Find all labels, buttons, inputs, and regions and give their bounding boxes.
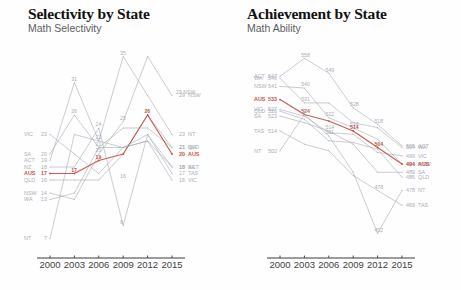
right-edge-state-label: TAS xyxy=(418,202,428,208)
left-edge-value-label: 16 xyxy=(41,177,47,183)
left-edge-value-label: 19 xyxy=(41,157,47,163)
data-point xyxy=(171,153,173,155)
series-line-nsw[interactable] xyxy=(50,57,172,200)
x-axis-tick-label[interactable]: 2009 xyxy=(343,259,364,270)
data-point xyxy=(353,172,354,173)
data-point xyxy=(377,190,378,191)
left-edge-value-label: 20 xyxy=(41,151,47,157)
value-label: 549 xyxy=(326,67,335,73)
data-point xyxy=(353,175,354,176)
data-point xyxy=(49,173,51,175)
data-point xyxy=(49,134,50,135)
dual-chart-figure: Selectivity by State Math Selectivity 35… xyxy=(0,0,461,290)
right-edge-state-label: NSW xyxy=(188,92,201,98)
value-label: 24 xyxy=(96,121,102,127)
left-edge-value-label: 541 xyxy=(268,83,277,89)
value-label: 540 xyxy=(301,81,310,87)
series-line-wa[interactable] xyxy=(280,78,402,147)
data-point xyxy=(279,116,280,117)
data-point xyxy=(49,166,50,167)
x-axis-tick-label[interactable]: 2006 xyxy=(318,259,339,270)
data-point xyxy=(123,127,124,128)
data-point xyxy=(279,86,280,87)
data-point xyxy=(123,225,124,226)
x-axis-tick-label[interactable]: 2003 xyxy=(64,259,85,270)
data-point xyxy=(304,122,305,123)
data-point xyxy=(401,190,402,191)
x-axis-tick-label[interactable]: 2015 xyxy=(161,259,182,270)
x-axis-tick-label[interactable]: 2012 xyxy=(137,259,158,270)
value-label: 16 xyxy=(120,173,126,179)
panel-selectivity: Selectivity by State Math Selectivity 35… xyxy=(0,0,230,290)
left-edge-state-label: WA xyxy=(24,196,33,202)
left-edge-state-label: NT xyxy=(24,235,32,241)
x-axis-tick-label[interactable]: 2015 xyxy=(391,259,412,270)
x-axis-tick-label[interactable]: 2009 xyxy=(113,259,134,270)
right-edge-value-label: 16 xyxy=(179,177,185,183)
right-edge-state-label: NT xyxy=(188,131,196,137)
data-point xyxy=(328,140,329,141)
x-axis-tick-label[interactable]: 2012 xyxy=(367,259,388,270)
data-point xyxy=(401,147,402,148)
right-edge-value-label: 499 xyxy=(406,153,415,159)
right-edge-state-label: AUS xyxy=(418,161,430,167)
left-edge-value-label: 18 xyxy=(41,164,47,170)
right-edge-state-label: SA xyxy=(418,169,426,175)
value-label: 17 xyxy=(71,167,77,173)
left-edge-state-label: SA xyxy=(254,113,262,119)
left-edge-value-label: 7 xyxy=(44,235,47,241)
left-edge-state-label: VIC xyxy=(24,131,33,137)
series-line-sa[interactable] xyxy=(280,116,402,172)
data-point xyxy=(377,124,378,125)
data-point xyxy=(171,134,172,135)
data-point xyxy=(401,177,402,178)
x-axis-tick-label[interactable]: 2006 xyxy=(88,259,109,270)
right-edge-state-label: VIC xyxy=(188,177,197,183)
right-edge-value-label: 18 xyxy=(179,164,185,170)
data-point xyxy=(401,163,403,165)
data-point xyxy=(74,134,75,135)
data-point xyxy=(328,73,329,74)
left-edge-state-label: ACT xyxy=(24,157,35,163)
value-label: 26 xyxy=(71,108,77,114)
data-point xyxy=(49,199,50,200)
data-point xyxy=(304,87,305,88)
value-label: 26 xyxy=(144,108,150,114)
data-point xyxy=(304,58,305,59)
right-edge-value-label: 23 xyxy=(179,131,185,137)
left-edge-value-label: 514 xyxy=(268,128,277,134)
value-label: 9 xyxy=(120,219,123,225)
data-point xyxy=(328,117,329,118)
right-edge-value-label: 489 xyxy=(406,169,415,175)
data-point xyxy=(279,150,280,151)
right-edge-value-label: 494 xyxy=(406,161,415,167)
data-point xyxy=(353,142,354,143)
x-axis-tick-label[interactable]: 2003 xyxy=(294,259,315,270)
data-point xyxy=(353,144,354,145)
value-label: 31 xyxy=(71,76,77,82)
x-axis-tick-label[interactable]: 2000 xyxy=(269,259,290,270)
right-edge-value-label: 17 xyxy=(179,170,185,176)
chart-canvas-selectivity[interactable]: 353126262524222120191716929 NSWNT723NTWA… xyxy=(0,0,230,290)
value-label: 531 xyxy=(301,96,310,102)
x-axis-tick-label[interactable]: 2000 xyxy=(39,259,60,270)
data-point xyxy=(304,119,305,120)
data-point xyxy=(328,120,330,122)
right-edge-state-label: NT xyxy=(418,187,426,193)
data-point xyxy=(49,153,50,154)
value-label: 452 xyxy=(374,227,383,233)
left-edge-state-label: WA xyxy=(254,75,263,81)
data-point xyxy=(171,166,172,167)
chart-canvas-achievement[interactable]: 5585405315245245495225145115285165145185… xyxy=(230,0,461,290)
series-line-nsw[interactable] xyxy=(280,86,402,164)
left-edge-value-label: 13 xyxy=(41,196,47,202)
left-edge-value-label: 14 xyxy=(41,190,47,196)
data-point xyxy=(279,78,280,79)
series-line-wa[interactable] xyxy=(50,128,172,200)
value-label: 22 xyxy=(96,134,102,140)
left-edge-value-label: 17 xyxy=(41,170,47,176)
right-edge-state-label: VIC xyxy=(418,153,427,159)
series-line-tas[interactable] xyxy=(280,131,402,205)
left-edge-state-label: NT xyxy=(254,148,262,154)
value-label: 25 xyxy=(120,115,126,121)
